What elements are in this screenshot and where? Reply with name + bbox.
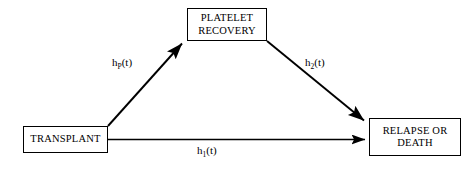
edge-label-tail: (t) [122, 56, 132, 68]
edge-label-transplant-to-relapse: h1(t) [197, 144, 217, 156]
edge-platelet-to-relapse [267, 41, 364, 121]
edge-label-transplant-to-platelet: hP(t) [112, 56, 132, 68]
node-platelet-recovery[interactable]: PLATELET RECOVERY [187, 8, 267, 41]
edge-label-base: h [305, 56, 311, 68]
diagram-canvas: TRANSPLANT PLATELET RECOVERY RELAPSE OR … [0, 0, 475, 171]
edge-label-base: h [197, 144, 203, 156]
edge-label-subscript: P [118, 62, 122, 71]
node-transplant-label: TRANSPLANT [30, 133, 100, 145]
edge-label-subscript: 1 [203, 150, 207, 159]
node-relapse-or-death[interactable]: RELAPSE OR DEATH [369, 118, 461, 156]
node-transplant[interactable]: TRANSPLANT [23, 126, 108, 153]
edge-label-base: h [112, 56, 118, 68]
edge-label-subscript: 2 [311, 62, 315, 71]
node-relapse-or-death-label: RELAPSE OR DEATH [383, 125, 448, 150]
edge-label-tail: (t) [206, 144, 216, 156]
edge-label-tail: (t) [314, 56, 324, 68]
node-platelet-recovery-label: PLATELET RECOVERY [198, 12, 256, 37]
edge-label-platelet-to-relapse: h2(t) [305, 56, 325, 68]
